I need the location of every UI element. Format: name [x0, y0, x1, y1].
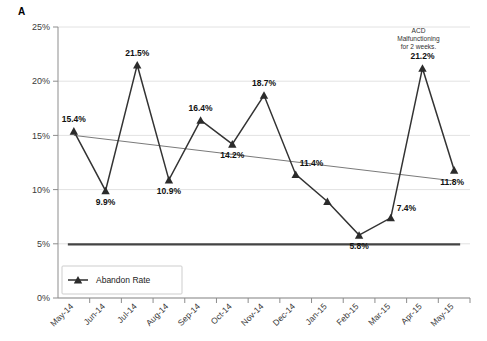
trend-line [74, 135, 454, 181]
panel-label: A [18, 6, 25, 17]
x-axis-tick-label: Dec-14 [271, 301, 298, 328]
y-axis-tick-label: 5% [37, 239, 50, 249]
x-axis-tick-label: Sep-14 [176, 301, 203, 328]
chart-canvas: 0%5%10%15%20%25%May-14Jun-14Jul-14Aug-14… [0, 0, 487, 341]
y-axis-tick-label: 20% [32, 76, 50, 86]
data-point-label: 21.2% [410, 51, 435, 61]
data-point-label: 7.4% [397, 203, 417, 213]
data-point-label: 5.8% [349, 241, 369, 251]
data-point-marker [291, 170, 299, 178]
data-point-label: 15.4% [62, 114, 87, 124]
data-point-marker [450, 166, 458, 174]
x-axis-tick-label: May-14 [48, 301, 75, 328]
annotation-line: for 2 weeks. [401, 43, 437, 50]
data-point-label: 11.8% [440, 177, 464, 187]
x-axis-tick-label: Mar-15 [366, 301, 392, 327]
y-axis-tick-label: 10% [32, 185, 50, 195]
legend-label: Abandon Rate [96, 275, 151, 285]
x-axis-tick-label: Apr-15 [399, 301, 424, 326]
x-axis-tick-label: May-15 [428, 301, 455, 328]
x-axis-tick-label: Jul-14 [115, 301, 139, 325]
annotation-line: Malfunctioning [397, 35, 440, 43]
data-point-label: 9.9% [96, 197, 116, 207]
data-point-label: 11.4% [300, 158, 324, 168]
annotation-line: ACD [412, 27, 426, 34]
abandon-rate-chart: A 0%5%10%15%20%25%May-14Jun-14Jul-14Aug-… [0, 0, 487, 341]
y-axis-tick-label: 15% [32, 131, 50, 141]
data-point-marker [165, 176, 173, 184]
x-axis-tick-label: Jun-14 [81, 301, 107, 327]
x-axis-tick-label: Feb-15 [334, 301, 360, 327]
data-point-marker [418, 64, 426, 72]
data-point-label: 21.5% [125, 48, 150, 58]
data-point-marker [260, 91, 268, 99]
y-axis-tick-label: 25% [32, 22, 50, 32]
data-point-label: 18.7% [252, 78, 277, 88]
x-axis-tick-label: Nov-14 [239, 301, 266, 328]
y-axis-tick-label: 0% [37, 293, 50, 303]
data-point-marker [101, 187, 109, 195]
data-point-marker [133, 61, 141, 69]
data-point-marker [196, 116, 204, 124]
data-point-marker [70, 127, 78, 135]
data-point-label: 14.2% [220, 150, 245, 160]
data-point-label: 16.4% [189, 103, 214, 113]
data-point-label: 10.9% [157, 186, 182, 196]
x-axis-tick-label: Jan-15 [303, 301, 329, 327]
x-axis-tick-label: Aug-14 [144, 301, 171, 328]
x-axis-tick-label: Oct-14 [209, 301, 234, 326]
data-point-marker [387, 214, 395, 222]
